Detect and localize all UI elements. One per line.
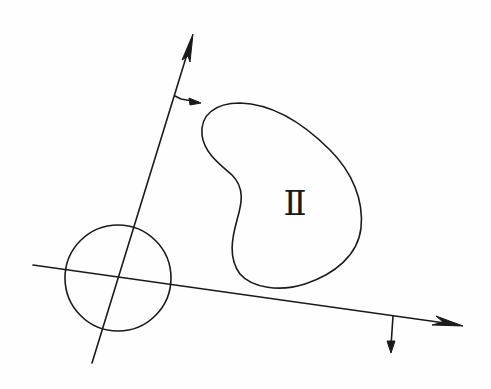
axis-2-arrowhead-icon xyxy=(432,316,463,326)
region-ii-label: Ⅱ xyxy=(283,183,306,223)
diagram-canvas: Ⅱ xyxy=(0,0,491,389)
region-ii-outline xyxy=(202,103,362,288)
axis-1-arrowhead-icon xyxy=(182,34,193,62)
axis-1-line xyxy=(92,38,192,363)
axis-1-normal-arrowhead-icon xyxy=(189,98,201,105)
axis-2-line xyxy=(33,265,459,325)
diagram-svg: Ⅱ xyxy=(0,0,491,389)
axis-2-normal-arrowhead-icon xyxy=(387,341,395,353)
